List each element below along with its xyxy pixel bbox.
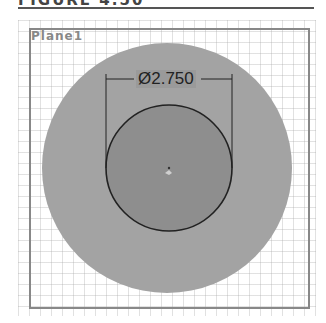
diameter-dimension[interactable]: Ø2.750 (136, 70, 196, 88)
center-point-icon[interactable] (168, 167, 170, 169)
sketch-drawing (0, 0, 326, 323)
